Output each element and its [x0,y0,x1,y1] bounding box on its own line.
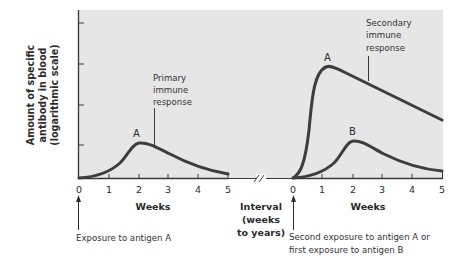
svg-text:4: 4 [409,184,415,195]
svg-text:antibody in blood: antibody in blood [37,47,48,142]
exposure-arrow-a [76,195,81,230]
exposure-arrow-b [291,195,296,230]
exposure-label-a: Exposure to antigen A [76,233,171,243]
x-tick-labels-primary: 0 1 2 3 4 5 [76,184,231,195]
svg-text:0: 0 [290,184,296,195]
primary-annotation: Primary immune response [153,73,192,107]
svg-text:Second exposure to antigen A o: Second exposure to antigen A or [289,232,430,242]
svg-text:to years): to years) [237,227,285,238]
svg-text:1: 1 [106,184,112,195]
peak-label-secondary-b: B [349,126,356,137]
svg-text:Primary: Primary [153,73,186,83]
svg-text:1: 1 [319,184,325,195]
svg-text:Secondary: Secondary [366,18,412,28]
svg-text:Amount of specific: Amount of specific [25,44,36,145]
svg-text:2: 2 [136,184,142,195]
y-axis-label: Amount of specific antibody in blood (lo… [25,44,60,145]
svg-text:3: 3 [379,184,385,195]
svg-text:2: 2 [350,184,356,195]
svg-text:response: response [153,97,192,107]
x-tick-labels-secondary: 0 1 2 3 4 5 [290,184,445,195]
svg-text:(weeks: (weeks [242,214,280,225]
x-axis-label-primary: Weeks [136,201,171,212]
peak-label-secondary-a: A [324,52,331,63]
svg-text:5: 5 [225,184,231,195]
svg-text:0: 0 [76,184,82,195]
svg-text:first exposure to antigen B: first exposure to antigen B [289,245,403,255]
svg-text:3: 3 [165,184,171,195]
x-axis-label-secondary: Weeks [351,201,386,212]
svg-text:immune: immune [153,85,188,95]
svg-text:response: response [366,43,405,53]
svg-text:(logarithmic scale): (logarithmic scale) [49,44,60,145]
svg-text:4: 4 [195,184,201,195]
svg-text:5: 5 [439,184,445,195]
interval-label: Interval (weeks to years) [237,201,285,238]
peak-label-primary-a: A [133,128,140,139]
svg-text:immune: immune [366,30,401,40]
svg-text:Interval: Interval [240,201,282,212]
antibody-response-chart: A A B Primary immune response Secondary … [0,0,463,263]
exposure-label-b: Second exposure to antigen A or first ex… [289,232,430,255]
